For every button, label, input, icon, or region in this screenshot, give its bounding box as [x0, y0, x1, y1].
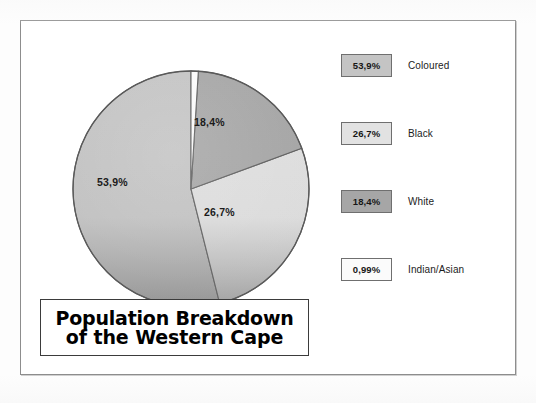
legend-swatch-coloured: 53,9% [341, 54, 392, 77]
chart-legend: 53,9% Coloured 26,7% Black 18,4% White [341, 47, 511, 337]
legend-value-black: 26,7% [353, 128, 380, 139]
slice-label-coloured: 53,9% [97, 176, 128, 188]
pie-chart [57, 39, 321, 307]
chart-plot-area: 18,4% 53,9% 26,7% Population Breakdown o… [21, 21, 517, 376]
legend-value-white: 18,4% [353, 196, 380, 207]
chart-title-box: Population Breakdown of the Western Cape [40, 299, 309, 356]
legend-swatch-white: 18,4% [341, 190, 392, 213]
legend-item-black[interactable]: 26,7% Black [341, 121, 433, 145]
legend-value-coloured: 53,9% [353, 60, 380, 71]
legend-label-coloured: Coloured [408, 60, 449, 71]
legend-label-white: White [408, 196, 434, 207]
chart-frame: 18,4% 53,9% 26,7% Population Breakdown o… [20, 20, 516, 375]
legend-swatch-indian-asian: 0,99% [341, 258, 392, 281]
scanned-page-background: 18,4% 53,9% 26,7% Population Breakdown o… [0, 0, 536, 403]
legend-label-black: Black [408, 128, 433, 139]
legend-label-indian-asian: Indian/Asian [408, 264, 464, 275]
slice-label-black: 26,7% [204, 206, 235, 218]
slice-label-white: 18,4% [194, 116, 225, 128]
legend-swatch-black: 26,7% [341, 122, 392, 145]
legend-item-white[interactable]: 18,4% White [341, 189, 434, 213]
legend-item-coloured[interactable]: 53,9% Coloured [341, 53, 449, 77]
legend-item-indian-asian[interactable]: 0,99% Indian/Asian [341, 257, 464, 281]
chart-title-line-2: of the Western Cape [66, 328, 283, 347]
legend-value-indian-asian: 0,99% [353, 264, 380, 275]
